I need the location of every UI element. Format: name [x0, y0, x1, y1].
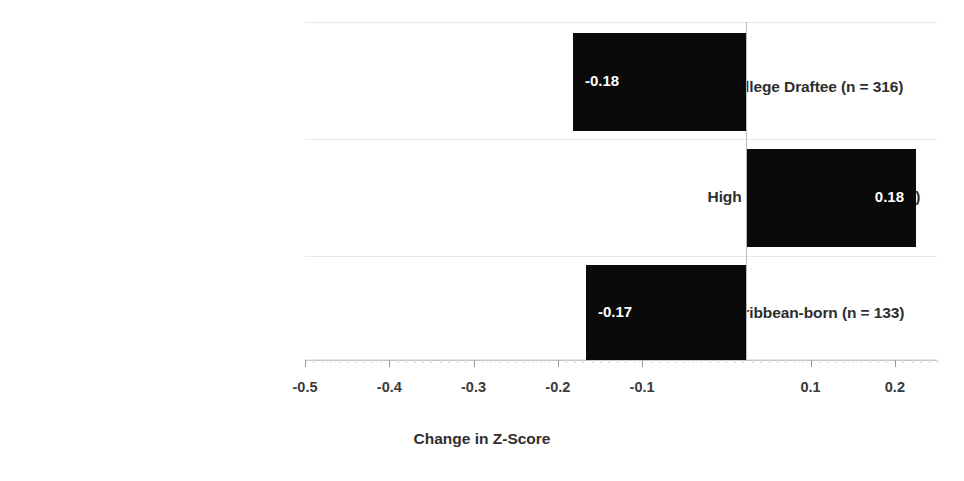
x-axis-minor-tick: [794, 360, 795, 363]
x-axis-minor-tick: [457, 360, 458, 363]
x-axis-minor-tick: [482, 360, 483, 363]
x-axis-minor-tick: [600, 360, 601, 363]
gridline-top: [305, 22, 937, 23]
x-axis-minor-tick: [929, 360, 930, 363]
x-axis-minor-tick: [819, 360, 820, 363]
bar-chart: College Draftee (n = 316) High School Dr…: [0, 0, 964, 481]
x-axis-major-tick: [474, 360, 475, 367]
x-axis-minor-tick: [853, 360, 854, 363]
bar-value-college-draftee: -0.18: [585, 72, 619, 89]
x-axis-minor-tick: [676, 360, 677, 363]
x-axis-minor-tick: [524, 360, 525, 363]
bar-high-school-draftee[interactable]: 0.18: [746, 149, 916, 247]
gridline-row-1: [305, 139, 937, 140]
x-axis-minor-tick: [693, 360, 694, 363]
x-axis-minor-tick: [870, 360, 871, 363]
x-axis-tick-label: 0.2: [860, 379, 930, 395]
x-axis-minor-tick: [777, 360, 778, 363]
x-axis-major-tick: [305, 360, 306, 367]
x-axis-minor-tick: [760, 360, 761, 363]
x-axis-minor-tick: [431, 360, 432, 363]
x-axis-minor-tick: [541, 360, 542, 363]
x-axis-minor-tick: [836, 360, 837, 363]
bar-caribbean-born[interactable]: -0.17: [586, 265, 746, 360]
x-axis-minor-tick: [406, 360, 407, 363]
x-axis-minor-tick: [659, 360, 660, 363]
x-axis-minor-tick: [490, 360, 491, 363]
x-axis-minor-tick: [625, 360, 626, 363]
x-axis-major-tick: [895, 360, 896, 367]
x-axis-minor-tick: [937, 360, 938, 363]
x-axis-minor-tick: [549, 360, 550, 363]
x-axis-minor-tick: [769, 360, 770, 363]
x-axis-minor-tick: [651, 360, 652, 363]
x-axis-minor-tick: [785, 360, 786, 363]
x-axis-minor-tick: [347, 360, 348, 363]
x-axis-minor-tick: [339, 360, 340, 363]
x-axis-minor-tick: [398, 360, 399, 363]
x-axis-minor-tick: [920, 360, 921, 363]
x-axis-minor-tick: [356, 360, 357, 363]
x-axis-minor-tick: [423, 360, 424, 363]
x-axis-minor-tick: [608, 360, 609, 363]
x-axis-minor-tick: [465, 360, 466, 363]
x-axis-minor-tick: [844, 360, 845, 363]
bar-college-draftee[interactable]: -0.18: [573, 33, 746, 131]
x-axis-minor-tick: [448, 360, 449, 363]
x-axis-minor-tick: [372, 360, 373, 363]
x-axis-minor-tick: [364, 360, 365, 363]
x-axis-minor-tick: [701, 360, 702, 363]
x-axis-minor-tick: [381, 360, 382, 363]
x-axis-minor-tick: [415, 360, 416, 363]
bar-value-high-school-draftee: 0.18: [875, 188, 904, 205]
x-axis-minor-tick: [684, 360, 685, 363]
plot-area: -0.18 0.18 -0.17: [305, 22, 937, 360]
x-axis-minor-tick: [617, 360, 618, 363]
x-axis-tick-label: -0.3: [439, 379, 509, 395]
x-axis-minor-tick: [743, 360, 744, 363]
x-axis-minor-tick: [499, 360, 500, 363]
x-axis-minor-tick: [828, 360, 829, 363]
x-axis-major-tick: [389, 360, 390, 367]
x-axis-minor-tick: [903, 360, 904, 363]
zero-axis-line: [746, 22, 747, 360]
x-axis-minor-tick: [566, 360, 567, 363]
x-axis-tick-label: -0.1: [607, 379, 677, 395]
x-axis-minor-tick: [634, 360, 635, 363]
x-axis-tick-label: -0.4: [354, 379, 424, 395]
x-axis-minor-tick: [912, 360, 913, 363]
x-axis-minor-tick: [710, 360, 711, 363]
x-axis-tick-label: 0.1: [776, 379, 846, 395]
x-axis-minor-tick: [583, 360, 584, 363]
x-axis-minor-tick: [507, 360, 508, 363]
x-axis-minor-tick: [322, 360, 323, 363]
x-axis-line: [305, 360, 937, 361]
x-axis-minor-tick: [878, 360, 879, 363]
x-axis-minor-tick: [735, 360, 736, 363]
x-axis-minor-tick: [313, 360, 314, 363]
x-axis-minor-tick: [718, 360, 719, 363]
x-axis-minor-tick: [861, 360, 862, 363]
x-axis-minor-tick: [667, 360, 668, 363]
x-axis-minor-tick: [516, 360, 517, 363]
bar-value-caribbean-born: -0.17: [598, 303, 632, 320]
x-axis-tick-label: -0.5: [270, 379, 340, 395]
x-axis-minor-tick: [440, 360, 441, 363]
x-axis-minor-tick: [802, 360, 803, 363]
x-axis-minor-tick: [330, 360, 331, 363]
x-axis-tick-label: -0.2: [523, 379, 593, 395]
x-axis-title: Change in Z-Score: [0, 430, 964, 448]
x-axis-minor-tick: [752, 360, 753, 363]
x-axis-minor-tick: [533, 360, 534, 363]
x-axis-major-tick: [811, 360, 812, 367]
x-axis-major-tick: [642, 360, 643, 367]
x-axis-minor-tick: [886, 360, 887, 363]
x-axis-minor-tick: [575, 360, 576, 363]
x-axis-minor-tick: [726, 360, 727, 363]
gridline-row-2: [305, 256, 937, 257]
x-axis-major-tick: [558, 360, 559, 367]
x-axis-minor-tick: [592, 360, 593, 363]
